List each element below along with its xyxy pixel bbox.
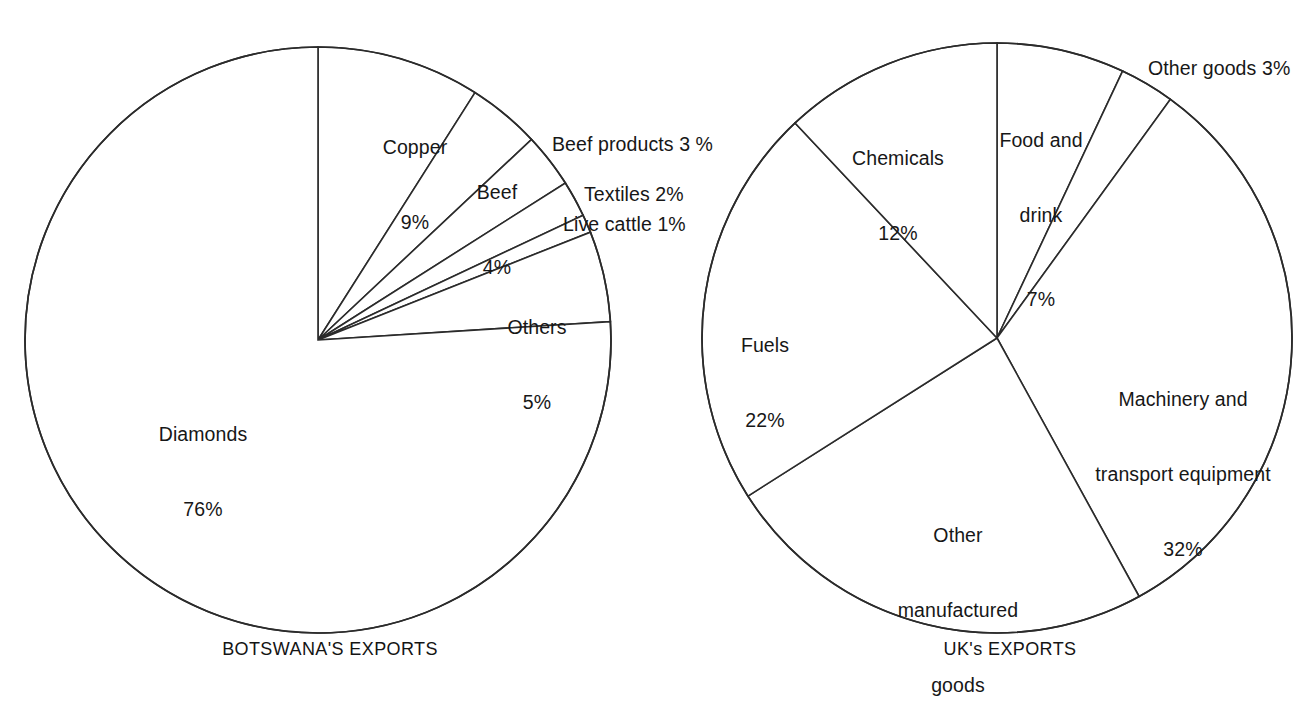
label-beef-line1: Beef [452, 180, 542, 205]
label-machinery-line1: Machinery and [1068, 387, 1298, 412]
label-fuels-line2: 22% [710, 408, 820, 433]
label-chemicals-line2: 12% [828, 221, 968, 246]
label-fuels: Fuels 22% [710, 283, 820, 483]
label-machinery-line2: transport equipment [1068, 462, 1298, 487]
pie-chart-figure: Copper 9% Beef 4% Beef products 3 % Text… [0, 0, 1314, 705]
caption-uk: UK's EXPORTS [880, 639, 1140, 660]
label-machinery-line3: 32% [1068, 537, 1298, 562]
label-other-manufactured: Other manufactured goods 24% [858, 473, 1058, 705]
label-chemicals-line1: Chemicals [828, 146, 968, 171]
label-food-and-drink: Food and drink 7% [985, 78, 1097, 362]
label-live-cattle: Live cattle 1% [563, 212, 686, 237]
label-diamonds: Diamonds 76% [133, 372, 273, 572]
label-fuels-line1: Fuels [710, 333, 820, 358]
caption-botswana: BOTSWANA'S EXPORTS [200, 639, 460, 660]
label-diamonds-line2: 76% [133, 497, 273, 522]
label-food-and-drink-line1: Food and [985, 128, 1097, 153]
label-other-manufactured-line1: Other [858, 523, 1058, 548]
label-beef-products: Beef products 3 % [552, 132, 713, 157]
label-diamonds-line1: Diamonds [133, 422, 273, 447]
label-others-line1: Others [487, 315, 587, 340]
label-others: Others 5% [487, 265, 587, 465]
label-machinery: Machinery and transport equipment 32% [1068, 337, 1298, 612]
label-other-manufactured-line3: goods [858, 673, 1058, 698]
label-food-and-drink-line2: drink [985, 203, 1097, 228]
label-other-manufactured-line2: manufactured [858, 598, 1058, 623]
label-others-line2: 5% [487, 390, 587, 415]
label-food-and-drink-line3: 7% [985, 287, 1097, 312]
label-chemicals: Chemicals 12% [828, 96, 968, 296]
label-textiles: Textiles 2% [584, 182, 684, 207]
label-other-goods: Other goods 3% [1148, 56, 1290, 81]
